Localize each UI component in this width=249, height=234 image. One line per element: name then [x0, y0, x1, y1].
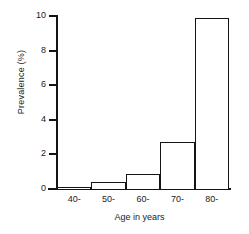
- y-tick-mark: [49, 50, 57, 52]
- plot-area: [57, 16, 229, 189]
- y-tick-label: 8: [24, 46, 46, 55]
- y-tick-label-wrap: 0: [22, 184, 46, 193]
- y-tick-mark: [49, 188, 57, 190]
- x-tick-label: 60-: [127, 194, 159, 204]
- y-tick-label: 10: [24, 11, 46, 20]
- y-tick-mark: [49, 15, 57, 17]
- y-tick-label: 2: [24, 149, 46, 158]
- y-tick-label: 0: [24, 184, 46, 193]
- y-tick-mark: [49, 84, 57, 86]
- x-tick-label: 50-: [93, 194, 125, 204]
- bar-80: [195, 18, 229, 189]
- y-tick-label: 6: [24, 80, 46, 89]
- y-tick-label-wrap: 8: [22, 46, 46, 55]
- y-tick-label-wrap: 4: [22, 115, 46, 124]
- y-tick-label-wrap: 6: [22, 80, 46, 89]
- y-tick-mark: [49, 153, 57, 155]
- y-tick-mark: [49, 119, 57, 121]
- y-tick-label: 4: [24, 115, 46, 124]
- bar-70: [160, 142, 194, 189]
- x-tick-label: 80-: [196, 194, 228, 204]
- x-axis-label: Age in years: [48, 212, 231, 223]
- bar-50: [91, 182, 125, 189]
- y-tick-label-wrap: 2: [22, 149, 46, 158]
- y-tick-label-wrap: 10: [22, 11, 46, 20]
- chart-figure: Prevalence (%) 0246810 40-50-60-70-80- A…: [0, 0, 249, 234]
- x-tick-label: 40-: [58, 194, 90, 204]
- bar-60: [126, 174, 160, 189]
- x-tick-label: 70-: [161, 194, 193, 204]
- bar-40: [57, 187, 91, 189]
